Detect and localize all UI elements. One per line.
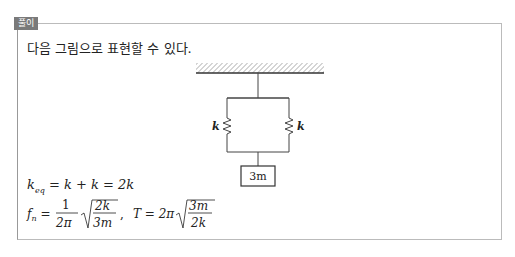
svg-text:3m: 3m — [189, 199, 208, 213]
svg-text:T = 2π: T = 2π — [133, 207, 175, 221]
svg-text:3m: 3m — [93, 216, 112, 230]
svg-text:2k: 2k — [94, 199, 110, 213]
svg-text:2k: 2k — [190, 216, 206, 230]
svg-text:,: , — [120, 207, 124, 221]
svg-text:1: 1 — [62, 198, 70, 212]
svg-text:2π: 2π — [55, 216, 73, 230]
svg-text:fn =: fn = — [26, 207, 50, 223]
equation-fn-T: fn = 1 2π 2k 3m , T = 2π 3m 2k — [0, 0, 515, 257]
